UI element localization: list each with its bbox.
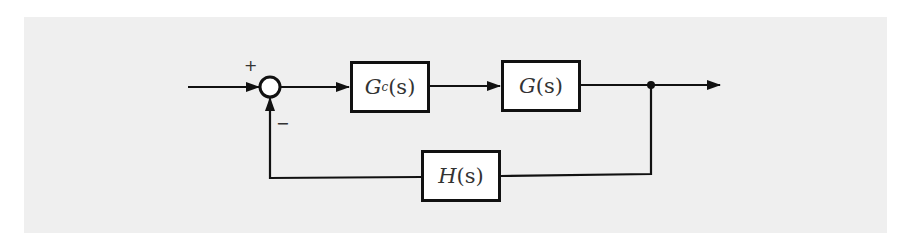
controller-symbol: G <box>365 75 382 99</box>
plant-block: G(s) <box>501 60 581 112</box>
controller-subscript: c <box>381 80 388 94</box>
plant-symbol: G <box>519 74 536 98</box>
plus-sign: + <box>244 58 257 74</box>
minus-sign: − <box>276 116 289 132</box>
controller-block: Gc(s) <box>350 61 430 113</box>
feedback-block: H(s) <box>421 150 501 202</box>
controller-arg: (s) <box>388 75 415 99</box>
plant-arg: (s) <box>536 74 563 98</box>
feedback-symbol: H <box>438 164 456 188</box>
block-diagram-lines <box>0 0 912 247</box>
feedback-arg: (s) <box>457 164 484 188</box>
summing-junction <box>260 77 280 97</box>
